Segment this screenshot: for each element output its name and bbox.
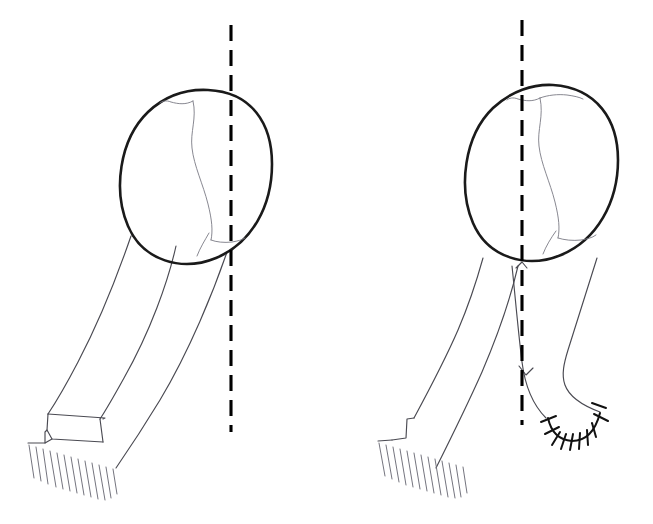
canvas-background <box>0 0 653 524</box>
illustration-canvas: Femoral rotational osteotomy: preoperati… <box>0 0 653 524</box>
suture-stitch <box>587 430 588 445</box>
suture-stitch <box>579 433 580 449</box>
surgical-illustration <box>0 0 653 524</box>
